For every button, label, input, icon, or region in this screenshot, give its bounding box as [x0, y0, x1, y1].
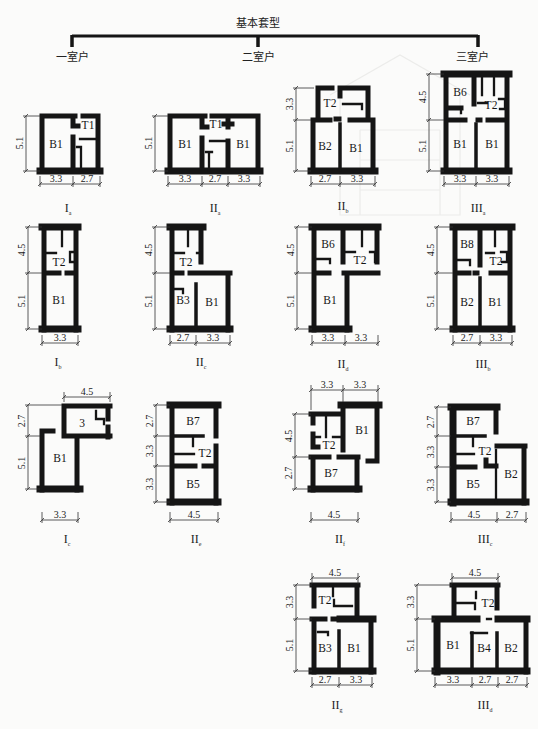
- plan-type-label: IIIb: [476, 357, 491, 372]
- dimension-label: 3.3: [238, 173, 251, 184]
- category-one-room: 一室户: [56, 50, 89, 64]
- room-label: B1: [205, 296, 219, 308]
- dimension-label: 2.7: [506, 674, 519, 685]
- plan-type-label: Ic: [64, 532, 71, 547]
- dimension-label: 4.5: [16, 244, 27, 257]
- dimension-label: 4.5: [283, 430, 294, 443]
- plan-IIc: T2 B3 B1 4.5 5.1 2.7 3.3 IIc: [143, 225, 232, 370]
- room-label: B3: [176, 294, 190, 306]
- dimension-label: 3.3: [354, 379, 367, 390]
- plan-IIg: T2 B3 B1 4.5 3.3 5.1 2.7 3.3 IIg: [284, 567, 374, 713]
- dimension-label: 5.1: [405, 639, 416, 652]
- background-watermark: [330, 55, 470, 215]
- dimension-label: 2.7: [283, 467, 294, 480]
- room-label: B1: [446, 639, 460, 651]
- dimension-label: 3.3: [207, 332, 220, 343]
- plan-IIa: B1 T1 B1 5.1 3.3 2.7 3.3 IIa: [143, 114, 262, 216]
- basic-unit-types-diagram: 基本套型 一室户 二室户 三室户 B1 T1 5.1 3.3 2.7 Ia B1…: [0, 0, 538, 729]
- room-label: B3: [318, 642, 332, 654]
- room-label: T2: [490, 255, 503, 267]
- dimension-label: 2.7: [177, 332, 190, 343]
- plan-type-label: Ia: [65, 201, 72, 216]
- dimension-label: 4.5: [81, 386, 94, 397]
- dimension-label: 2.7: [16, 415, 27, 428]
- room-label: T1: [82, 119, 95, 131]
- dimension-label: 3.3: [454, 173, 467, 184]
- dimension-label: 5.1: [16, 295, 27, 308]
- dimension-label: 4.5: [468, 509, 481, 520]
- dimension-label: 5.1: [16, 457, 27, 470]
- room-label: B1: [488, 296, 502, 308]
- room-label: T2: [323, 439, 336, 451]
- room-label: T2: [354, 254, 367, 266]
- room-label: 3: [79, 417, 85, 429]
- dimension-label: 5.1: [143, 137, 154, 150]
- dimension-label: 5.1: [143, 295, 154, 308]
- category-three-room: 三室户: [456, 50, 489, 64]
- dimension-label: 5.1: [284, 140, 295, 153]
- plan-IIIb: B8 T2 B2 B1 4.5 5.1 2.7 3.3 IIIb: [425, 225, 514, 372]
- plan-type-label: IId: [338, 357, 349, 372]
- room-label: B6: [453, 86, 467, 98]
- dimension-label: 5.1: [417, 140, 428, 153]
- room-label: B1: [485, 138, 499, 150]
- plan-type-label: IIf: [335, 532, 345, 547]
- plan-Ib: T2 B1 4.5 5.1 3.3 Ib: [16, 225, 80, 370]
- room-label: T2: [482, 597, 495, 609]
- classification-tree: 基本套型 一室户 二室户 三室户: [56, 16, 489, 64]
- dimension-label: 4.5: [328, 509, 341, 520]
- dimension-label: 2.7: [479, 674, 492, 685]
- dimension-label: 2.7: [506, 509, 519, 520]
- dimension-label: 2.7: [81, 173, 94, 184]
- dimension-label: 3.3: [405, 596, 416, 609]
- plan-type-label: IIId: [478, 698, 493, 713]
- dimension-label: 2.7: [209, 173, 222, 184]
- diagram-title: 基本套型: [236, 16, 280, 30]
- room-label: B1: [178, 138, 192, 150]
- room-label: T2: [319, 594, 332, 606]
- dimension-label: 4.5: [417, 91, 428, 104]
- room-label: T2: [485, 99, 498, 111]
- plan-type-label: Ib: [55, 355, 62, 370]
- dimension-label: 5.1: [284, 639, 295, 652]
- plan-IIId: T2 B1 B4 B2 4.5 3.3 5.1 3.3 2.7 2.7 IIId: [405, 567, 529, 713]
- room-label: B1: [349, 142, 363, 154]
- room-label: B2: [504, 642, 518, 654]
- dimension-label: 2.7: [319, 173, 332, 184]
- plan-IId: B6 T2 B1 4.5 5.1 3.3 3.3 IId: [285, 225, 380, 372]
- room-label: B4: [477, 642, 491, 654]
- dimension-label: 3.3: [50, 173, 63, 184]
- plan-type-label: IIc: [196, 355, 207, 370]
- room-label: B6: [321, 238, 335, 250]
- dimension-label: 4.5: [143, 244, 154, 257]
- plan-IIe: B7 T2 B5 2.7 3.3 3.3 4.5 IIe: [144, 403, 220, 547]
- dimension-label: 4.5: [188, 509, 201, 520]
- dimension-label: 4.5: [285, 244, 296, 257]
- room-label: B1: [53, 452, 67, 464]
- room-label: B7: [466, 415, 480, 427]
- dimension-label: 3.3: [490, 332, 503, 343]
- dimension-label: 5.1: [14, 137, 25, 150]
- dimension-label: 3.3: [486, 173, 499, 184]
- dimension-label: 3.3: [54, 332, 67, 343]
- room-label: B1: [355, 424, 369, 436]
- dimension-label: 2.7: [425, 416, 436, 429]
- dimension-label: 3.3: [179, 173, 192, 184]
- room-label: B1: [49, 138, 63, 150]
- plan-IIIc: B7 T2 B5 B2 2.7 3.3 3.3 4.5 2.7 IIIc: [425, 405, 528, 547]
- room-label: B1: [453, 138, 467, 150]
- dimension-label: 3.3: [351, 173, 364, 184]
- plan-type-label: IIg: [332, 698, 343, 713]
- room-label: T2: [53, 256, 66, 268]
- dimension-label: 3.3: [355, 332, 368, 343]
- dimension-label: 3.3: [322, 332, 335, 343]
- room-label: B1: [236, 138, 250, 150]
- room-label: T2: [180, 256, 193, 268]
- dimension-label: 3.3: [425, 479, 436, 492]
- room-label: T2: [199, 447, 212, 459]
- dimension-label: 4.5: [329, 567, 342, 578]
- room-label: B1: [52, 294, 66, 306]
- dimension-label: 3.3: [144, 445, 155, 458]
- dimension-label: 3.3: [54, 509, 67, 520]
- plan-IIIa: B6 T2 B1 B1 4.5 5.1 3.3 3.3 IIIa: [417, 72, 511, 216]
